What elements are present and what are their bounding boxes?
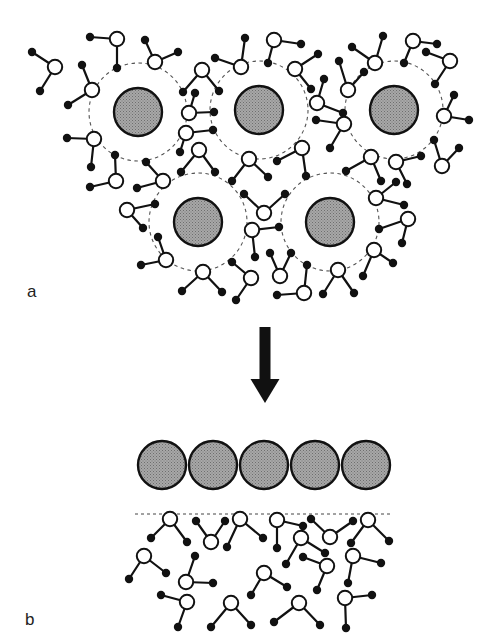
hydrogen-atom xyxy=(209,579,217,587)
water-molecule xyxy=(228,258,258,304)
oxygen-atom xyxy=(85,83,99,97)
hydrogen-atom xyxy=(297,40,305,48)
hydrogen-atom xyxy=(385,537,393,545)
hydrogen-atom xyxy=(192,517,200,525)
hydrogen-atom xyxy=(78,61,86,69)
oxygen-atom xyxy=(295,141,309,155)
hydrogen-atom xyxy=(266,249,274,257)
hydrogen-atom xyxy=(344,579,352,587)
water-molecule xyxy=(430,136,463,173)
oxygen-atom xyxy=(361,513,375,527)
water-molecule xyxy=(120,200,159,232)
water-molecule xyxy=(211,34,249,74)
water-molecule xyxy=(266,249,295,283)
hydrogen-atom xyxy=(264,173,272,181)
hydrogen-atom xyxy=(141,36,149,44)
hydrogen-atom xyxy=(223,543,231,551)
hydrogen-atom xyxy=(319,290,327,298)
hydrogen-atom xyxy=(307,515,315,523)
water-molecule xyxy=(344,549,385,587)
oxygen-atom xyxy=(337,117,351,131)
oxygen-atom xyxy=(204,535,218,549)
water-molecule xyxy=(299,553,334,594)
hydrogen-atom xyxy=(215,87,223,95)
hydrogen-atom xyxy=(360,68,368,76)
water-molecule xyxy=(335,57,368,97)
oxygen-atom xyxy=(159,253,173,267)
panel-label-a: a xyxy=(27,282,36,302)
oxygen-atom xyxy=(137,549,151,563)
hydrogen-atom xyxy=(299,553,307,561)
panel-b-particle-chain xyxy=(138,441,390,489)
hydrogen-atom xyxy=(303,261,311,269)
oxygen-atom xyxy=(310,96,324,110)
hydrogen-atom xyxy=(63,134,71,142)
oxygen-atom xyxy=(338,591,352,605)
hydrogen-atom xyxy=(270,618,278,626)
water-molecule xyxy=(133,158,170,192)
oxygen-atom xyxy=(179,126,193,140)
oxygen-atom xyxy=(443,54,457,68)
particle-sphere xyxy=(306,198,354,246)
hydrogen-atom xyxy=(321,549,329,557)
hydrogen-atom xyxy=(86,33,94,41)
oxygen-atom xyxy=(48,60,62,74)
hydrogen-atom xyxy=(247,621,255,629)
particle-sphere xyxy=(370,86,418,134)
oxygen-atom xyxy=(180,595,194,609)
hydrogen-atom xyxy=(430,136,438,144)
water-molecule xyxy=(375,212,415,247)
hydrogen-atom xyxy=(174,48,182,56)
oxygen-atom xyxy=(233,512,247,526)
hydrogen-atom xyxy=(433,40,441,48)
water-molecule xyxy=(63,132,101,171)
oxygen-atom xyxy=(346,549,360,563)
hydrogen-atom xyxy=(379,32,387,40)
hydrogen-atom xyxy=(157,591,165,599)
hydrogen-atom xyxy=(177,168,185,176)
oxygen-atom xyxy=(87,132,101,146)
oxygen-atom xyxy=(292,596,306,610)
hydrogen-atom xyxy=(350,289,358,297)
particle-sphere xyxy=(189,441,237,489)
oxygen-atom xyxy=(109,174,123,188)
hydrogen-atom xyxy=(232,296,240,304)
hydrogen-atom xyxy=(455,144,463,152)
hydrogen-atom xyxy=(178,287,186,295)
hydrogen-atom xyxy=(125,575,133,583)
oxygen-atom xyxy=(245,223,259,237)
panel-label-b: b xyxy=(25,610,34,630)
water-molecule xyxy=(207,596,255,631)
water-molecule xyxy=(422,48,457,88)
hydrogen-atom xyxy=(273,544,281,552)
oxygen-atom xyxy=(257,566,271,580)
hydrogen-atom xyxy=(210,108,218,116)
oxygen-atom xyxy=(364,150,378,164)
particle-sphere xyxy=(291,441,339,489)
hydrogen-atom xyxy=(465,116,473,124)
water-molecule xyxy=(437,91,473,124)
water-molecule xyxy=(245,223,283,261)
hydrogen-atom xyxy=(342,624,350,632)
hydrogen-atom xyxy=(375,225,383,233)
oxygen-atom xyxy=(110,32,124,46)
hydrogen-atom xyxy=(240,190,248,198)
oxygen-atom xyxy=(148,55,162,69)
hydrogen-atom xyxy=(398,239,406,247)
hydrogen-atom xyxy=(36,87,44,95)
hydrogen-atom xyxy=(335,57,343,65)
oxygen-atom xyxy=(401,212,415,226)
hydrogen-atom xyxy=(264,59,272,67)
hydrogen-atom xyxy=(299,522,307,530)
hydrogen-atom xyxy=(400,201,408,209)
hydrogen-atom xyxy=(307,85,315,93)
hydrogen-atom xyxy=(316,621,324,629)
water-molecule xyxy=(28,48,62,95)
hydrogen-atom xyxy=(174,623,182,631)
water-molecule xyxy=(137,233,173,269)
oxygen-atom xyxy=(234,60,248,74)
hydrogen-atom xyxy=(151,200,159,208)
oxygen-atom xyxy=(368,56,382,70)
water-molecule xyxy=(223,512,267,551)
hydrogen-atom xyxy=(211,168,219,176)
